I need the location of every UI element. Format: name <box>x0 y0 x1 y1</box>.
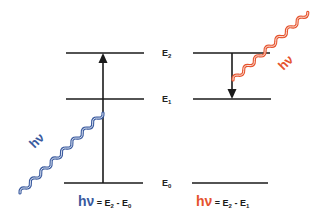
emission-formula-sub2: 1 <box>246 203 249 209</box>
absorption-formula-eq: = E <box>94 198 110 208</box>
emission-formula-hv: hν <box>196 193 212 209</box>
emitted-photon-wave-icon <box>231 11 309 82</box>
level-e1-sub: 1 <box>168 99 171 105</box>
absorption-formula-minus: - E <box>114 198 128 208</box>
emission-formula-eq: = E <box>212 198 228 208</box>
level-label-e1: E1 <box>162 95 171 105</box>
level-label-e0: E0 <box>162 179 171 189</box>
level-e2-sub: 2 <box>168 53 171 59</box>
absorption-formula-hv: hν <box>78 193 94 209</box>
energy-level-diagram: E2 E1 E0 hν hν hν = E2 - E0 hν = E2 - E1 <box>0 0 325 218</box>
absorption-formula: hν = E2 - E0 <box>78 193 131 209</box>
emission-formula-minus: - E <box>232 198 246 208</box>
level-label-e2: E2 <box>162 49 171 59</box>
emission-formula: hν = E2 - E1 <box>196 193 249 209</box>
absorbed-photon-wave-icon <box>18 111 104 194</box>
level-e0-sub: 0 <box>168 183 171 189</box>
absorption-formula-sub2: 0 <box>128 203 131 209</box>
